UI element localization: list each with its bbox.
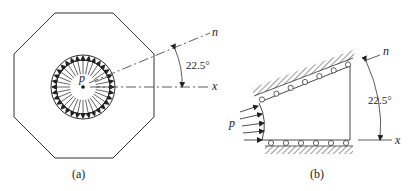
top-wall-line xyxy=(254,58,353,96)
center-point xyxy=(81,85,85,89)
pressure-label-a: p xyxy=(79,72,85,84)
octagon-body xyxy=(14,13,154,158)
axis-n-label-a: n xyxy=(212,26,218,38)
bottom-wall-hatch xyxy=(265,146,353,154)
pressure-label-b: p xyxy=(229,117,235,129)
top-wall-hatch xyxy=(252,50,355,96)
caption-a: (a) xyxy=(72,168,85,180)
pressure-arrows-b xyxy=(240,106,264,140)
axis-n-label-b: n xyxy=(383,45,389,57)
diagram-canvas xyxy=(0,0,411,191)
bottom-rollers xyxy=(268,140,348,145)
inner-arc-boundary xyxy=(259,103,264,140)
caption-b: (b) xyxy=(310,168,324,180)
angle-arc xyxy=(175,49,182,87)
angle-label-b: 22.5° xyxy=(368,95,392,106)
figure-a xyxy=(14,13,210,158)
angle-label-a: 22.5° xyxy=(186,60,210,71)
axis-x-label-a: x xyxy=(212,80,217,92)
n-axis-line-b xyxy=(364,55,380,61)
axis-x-label-b: x xyxy=(395,134,400,146)
n-axis-line xyxy=(89,33,210,83)
